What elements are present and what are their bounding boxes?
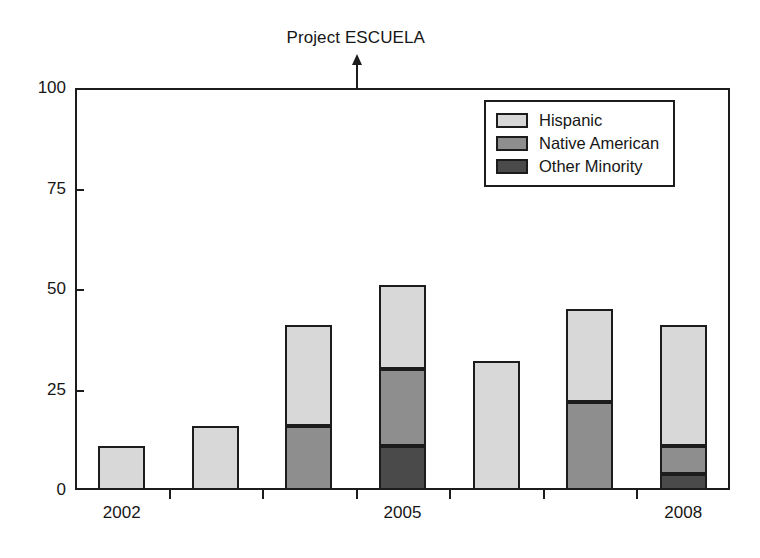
x-axis-tick-mark <box>169 490 171 499</box>
bar-2005[interactable] <box>379 285 426 490</box>
y-axis-tick-label: 50 <box>20 279 66 299</box>
bar-segment-hispanic <box>660 325 707 446</box>
bar-2008[interactable] <box>660 325 707 490</box>
bar-segment-native-american <box>285 426 332 490</box>
y-axis-tick-mark <box>75 390 84 392</box>
bar-segment-hispanic <box>285 325 332 426</box>
bar-segment-hispanic <box>379 285 426 369</box>
y-axis-tick-label: 0 <box>20 480 66 500</box>
legend-label-native-american: Native American <box>539 134 659 153</box>
y-axis-tick-labels: 0255075100 <box>14 0 66 558</box>
bar-segment-native-american <box>379 369 426 445</box>
legend-item-native-american: Native American <box>496 132 659 155</box>
x-axis-tick-mark <box>543 490 545 499</box>
bar-2002[interactable] <box>98 446 145 490</box>
x-axis-tick-mark <box>262 490 264 499</box>
x-axis-tick-mark <box>449 490 451 499</box>
bar-2007[interactable] <box>566 309 613 490</box>
bar-2004[interactable] <box>285 325 332 490</box>
dark-gray-swatch-icon <box>496 159 528 174</box>
y-axis-tick-label: 25 <box>20 380 66 400</box>
y-axis-tick-label: 100 <box>20 78 66 98</box>
bar-segment-other-minority <box>379 446 426 490</box>
bar-segment-hispanic <box>98 446 145 490</box>
x-axis-tick-mark <box>356 490 358 499</box>
y-axis-tick-mark <box>75 189 84 191</box>
bar-segment-other-minority <box>660 474 707 490</box>
bar-segment-hispanic <box>473 361 520 490</box>
bar-segment-hispanic <box>566 309 613 401</box>
chart-legend: Hispanic Native American Other Minority <box>484 100 675 187</box>
legend-label-hispanic: Hispanic <box>539 111 602 130</box>
bar-2003[interactable] <box>192 426 239 490</box>
bar-chart-figure: Project ESCUELA 0255075100 Hispanic Nati… <box>0 0 760 558</box>
y-axis-tick-label: 75 <box>20 179 66 199</box>
x-axis-tick-label: 2005 <box>358 503 448 523</box>
x-axis-tick-label: 2002 <box>77 503 167 523</box>
bar-segment-native-american <box>660 446 707 474</box>
bar-segment-native-american <box>566 402 613 490</box>
bar-segment-hispanic <box>192 426 239 490</box>
project-escuela-annotation-label: Project ESCUELA <box>236 28 476 48</box>
legend-item-hispanic: Hispanic <box>496 109 659 132</box>
y-axis-tick-mark <box>75 289 84 291</box>
x-axis-tick-mark <box>636 490 638 499</box>
bar-2006[interactable] <box>473 361 520 490</box>
legend-label-other-minority: Other Minority <box>539 157 643 176</box>
light-gray-swatch-icon <box>496 113 528 128</box>
legend-item-other-minority: Other Minority <box>496 155 659 178</box>
medium-gray-swatch-icon <box>496 136 528 151</box>
x-axis-tick-label: 2008 <box>638 503 728 523</box>
